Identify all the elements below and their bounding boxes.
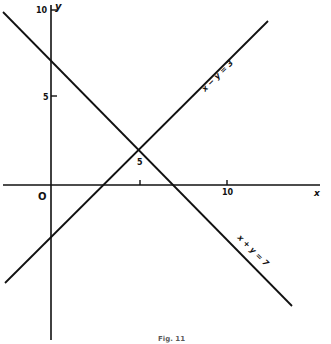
- y-tick-label-5: 5: [43, 93, 49, 102]
- y-tick-label-10: 10: [36, 6, 48, 15]
- graph-figure: y x O 10 5 5 10 x − y = 3 x + y = 7 Fig.…: [0, 0, 331, 344]
- line-label-x-plus-y-eq-7: x + y = 7: [235, 232, 271, 268]
- y-axis-label: y: [55, 1, 62, 12]
- origin-label: O: [38, 191, 47, 202]
- x-tick-label-5: 5: [137, 158, 143, 167]
- x-tick-label-10: 10: [222, 188, 234, 197]
- x-axis-label: x: [313, 188, 321, 198]
- line-x-plus-y-eq-7: [3, 12, 292, 306]
- figure-caption: Fig. 11: [158, 335, 185, 343]
- line-label-x-minus-y-eq-3: x − y = 3: [199, 58, 235, 94]
